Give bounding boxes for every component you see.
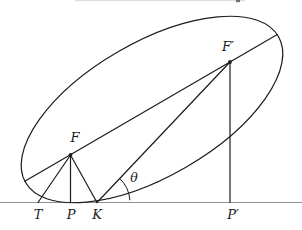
ellipse-curve <box>0 0 302 230</box>
focus-dot-F-prime <box>228 60 232 64</box>
label-F: F <box>69 130 80 145</box>
label-P-prime: P′ <box>226 207 239 222</box>
segment-F-T <box>38 155 71 203</box>
figure-frame: FF′TPKP′θ <box>0 0 302 230</box>
theta-angle-arc <box>120 179 130 201</box>
segment-F-K <box>71 155 98 203</box>
label-K: K <box>91 207 103 222</box>
label-P: P <box>66 207 76 222</box>
ellipse-focus-diagram: FF′TPKP′θ <box>0 0 302 230</box>
cropped-text-artifact <box>75 0 245 1</box>
label-F-prime: F′ <box>221 39 234 54</box>
label-theta: θ <box>130 170 138 185</box>
label-T: T <box>34 207 44 222</box>
focus-dot-F <box>69 153 73 157</box>
cropped-text-artifact-mark <box>236 0 240 2</box>
segment-K-Fprime <box>97 62 230 203</box>
major-axis-line <box>25 35 277 182</box>
